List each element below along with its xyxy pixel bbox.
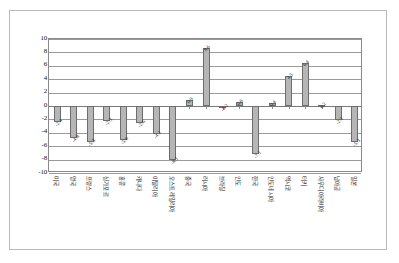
plot-area <box>48 38 362 172</box>
bar <box>351 106 358 142</box>
bar <box>203 48 210 106</box>
gridline <box>49 133 361 134</box>
bar-chart: 1086420-2-4-6-8-10 -2.4-4.8-5.3-2.3-5.0-… <box>0 0 399 263</box>
bar <box>302 63 309 106</box>
x-category-label: 인도네시아 <box>268 176 274 202</box>
x-category-label: 터키 <box>301 176 307 186</box>
x-category-label: 미국 <box>53 176 59 186</box>
y-tick-label: -2 <box>27 115 47 122</box>
y-tick-label: 0 <box>27 102 47 109</box>
bar <box>169 106 176 160</box>
x-category-label: 홍콩 <box>119 176 125 186</box>
y-tick-label: 2 <box>27 88 47 95</box>
x-category-label: 싱가포르 <box>103 176 109 197</box>
x-tickmark <box>305 106 306 109</box>
x-tickmark <box>189 106 190 109</box>
x-category-label: 멕시코 <box>285 176 291 192</box>
x-category-label: 사우디아라비아 <box>318 176 324 212</box>
x-category-label: 오스트레일리아 <box>169 176 175 212</box>
x-category-label: 중국 <box>185 176 191 186</box>
y-tick-label: -6 <box>27 142 47 149</box>
x-tickmark <box>289 106 290 109</box>
y-tick-label: -4 <box>27 128 47 135</box>
y-tick-label: 6 <box>27 61 47 68</box>
bar <box>87 106 94 142</box>
x-category-label: 영국 <box>70 176 76 186</box>
y-tick-label: -10 <box>27 169 47 176</box>
gridline <box>49 39 361 40</box>
x-tickmark <box>206 106 207 109</box>
gridline <box>49 173 361 174</box>
y-tick-label: 8 <box>27 48 47 55</box>
x-category-label: 이탈리아 <box>152 176 158 197</box>
x-category-label: 일본 <box>351 176 357 186</box>
x-category-label: 캐나다 <box>136 176 142 192</box>
x-category-label: 인도 <box>235 176 241 186</box>
x-category-label: 러시아 <box>202 176 208 192</box>
y-tick-label: -8 <box>27 155 47 162</box>
x-category-label: 프랑스 <box>86 176 92 192</box>
y-tick-label: 10 <box>27 35 47 42</box>
x-category-label: 브라질 <box>219 176 225 192</box>
bar <box>252 106 259 154</box>
y-tick-label: 4 <box>27 75 47 82</box>
x-category-label: 남아공 <box>334 176 340 192</box>
x-category-label: 한국 <box>252 176 258 186</box>
gridline <box>49 160 361 161</box>
gridline <box>49 146 361 147</box>
gridline <box>49 119 361 120</box>
zero-axis-line <box>49 106 361 107</box>
bar <box>120 106 127 140</box>
